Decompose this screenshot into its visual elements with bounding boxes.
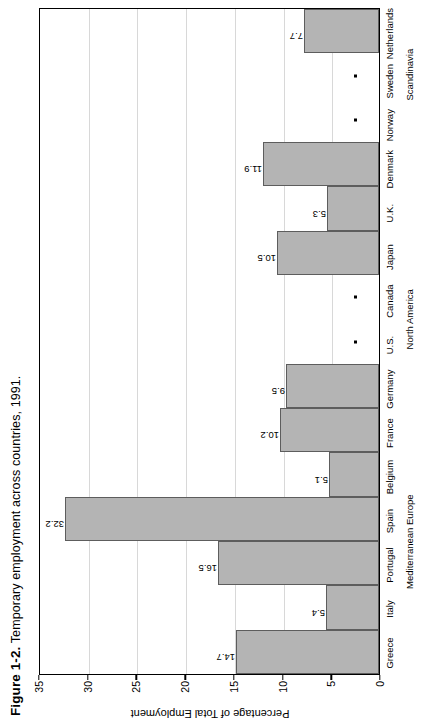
bar-value-label: 14.7 xyxy=(216,652,235,663)
missing-data-marker xyxy=(40,319,379,363)
y-tick-mark xyxy=(87,675,88,680)
missing-data-marker xyxy=(40,98,379,142)
y-tick-mark xyxy=(184,675,185,680)
y-tick-mark xyxy=(233,675,234,680)
category-label: U.S. xyxy=(383,323,403,367)
bar-slot[interactable]: 16.5 xyxy=(40,541,379,585)
y-tick-label: 10 xyxy=(277,681,289,693)
bar[interactable]: 5.3 xyxy=(327,186,379,230)
bar-slot[interactable] xyxy=(40,98,379,142)
y-tick-label: 15 xyxy=(228,681,240,693)
asterisk-icon xyxy=(354,340,357,343)
bar[interactable]: 7.7 xyxy=(304,9,379,53)
category-label: Portugal xyxy=(383,543,403,587)
plot-area: 14.75.416.532.25.110.29.510.55.311.97.7 xyxy=(39,8,380,675)
category-label: Sweden xyxy=(383,59,403,103)
group-label: Mediterranean Europe xyxy=(404,408,415,675)
bar-value-label: 32.2 xyxy=(46,519,65,530)
y-tick-mark xyxy=(379,675,380,680)
category-label: Germany xyxy=(383,367,403,411)
missing-data-marker xyxy=(40,275,379,319)
category-label: Netherlands xyxy=(383,8,403,59)
bar-series: 14.75.416.532.25.110.29.510.55.311.97.7 xyxy=(40,9,379,674)
bar-slot[interactable] xyxy=(40,275,379,319)
category-label: U.K. xyxy=(383,191,403,235)
y-tick-mark xyxy=(331,675,332,680)
bar-slot[interactable]: 14.7 xyxy=(40,630,379,674)
category-label: Italy xyxy=(383,587,403,631)
category-label: Canada xyxy=(383,279,403,323)
y-tick-label: 30 xyxy=(82,681,94,693)
bar-slot[interactable]: 11.9 xyxy=(40,142,379,186)
bar-slot[interactable]: 10.2 xyxy=(40,408,379,452)
category-label: Belgium xyxy=(383,455,403,499)
figure: Figure 1-2. Temporary employment across … xyxy=(0,0,436,722)
category-label: France xyxy=(383,411,403,455)
y-tick-mark xyxy=(282,675,283,680)
bar-value-label: 5.3 xyxy=(313,209,326,220)
y-tick-label: 35 xyxy=(33,681,45,693)
bar-value-label: 16.5 xyxy=(199,563,218,574)
bar[interactable]: 10.2 xyxy=(280,408,379,452)
bar-value-label: 9.5 xyxy=(272,386,285,397)
bar-slot[interactable]: 32.2 xyxy=(40,497,379,541)
category-label: Greece xyxy=(383,631,403,675)
bar[interactable]: 10.5 xyxy=(277,231,379,275)
asterisk-icon xyxy=(354,74,357,77)
bar-value-label: 11.9 xyxy=(244,164,262,175)
bar-slot[interactable]: 7.7 xyxy=(40,9,379,53)
bar-slot[interactable] xyxy=(40,53,379,97)
bar-slot[interactable]: 9.5 xyxy=(40,364,379,408)
bar-slot[interactable]: 5.4 xyxy=(40,585,379,629)
y-tick-label: 20 xyxy=(179,681,191,693)
bar-value-label: 10.2 xyxy=(260,430,279,441)
category-label: Norway xyxy=(383,103,403,147)
category-label: Denmark xyxy=(383,147,403,191)
bar-slot[interactable]: 10.5 xyxy=(40,231,379,275)
bar[interactable]: 5.1 xyxy=(329,452,379,496)
category-axis-labels: GreeceItalyPortugalSpainBelgiumFranceGer… xyxy=(383,8,403,675)
missing-data-marker xyxy=(40,53,379,97)
bar-value-label: 5.4 xyxy=(312,608,325,619)
bar-slot[interactable]: 5.1 xyxy=(40,452,379,496)
figure-number: Figure 1-2. xyxy=(8,647,23,716)
group-label: North America xyxy=(404,275,415,364)
figure-rotator: Figure 1-2. Temporary employment across … xyxy=(0,0,436,722)
y-axis-ticks: 05101520253035 xyxy=(39,675,380,722)
bar-value-label: 7.7 xyxy=(290,31,303,42)
y-tick-label: 0 xyxy=(374,681,386,687)
figure-title: Figure 1-2. Temporary employment across … xyxy=(8,376,23,716)
category-label: Japan xyxy=(383,235,403,279)
asterisk-icon xyxy=(354,118,357,121)
bar[interactable]: 5.4 xyxy=(326,585,379,629)
bar-value-label: 5.1 xyxy=(315,475,328,486)
y-tick-label: 25 xyxy=(130,681,142,693)
bar[interactable]: 11.9 xyxy=(263,142,379,186)
bar-slot[interactable] xyxy=(40,319,379,363)
group-labels: Mediterranean EuropeNorth AmericaScandin… xyxy=(404,8,424,675)
bar[interactable]: 32.2 xyxy=(65,497,379,541)
asterisk-icon xyxy=(354,296,357,299)
bar-value-label: 10.5 xyxy=(257,253,276,264)
figure-caption: Temporary employment across countries, 1… xyxy=(9,376,23,644)
y-tick-label: 5 xyxy=(325,681,337,687)
group-label: Scandinavia xyxy=(404,8,415,141)
bar-slot[interactable]: 5.3 xyxy=(40,186,379,230)
bar[interactable]: 16.5 xyxy=(218,541,379,585)
y-tick-mark xyxy=(38,675,39,680)
bar[interactable]: 14.7 xyxy=(236,630,379,674)
y-tick-mark xyxy=(136,675,137,680)
bar[interactable]: 9.5 xyxy=(286,364,379,408)
category-label: Spain xyxy=(383,499,403,543)
